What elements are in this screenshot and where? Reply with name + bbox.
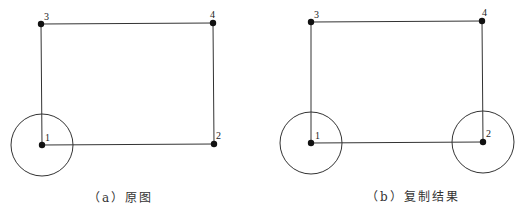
caption-original: （a）原图	[88, 188, 153, 205]
node-label-1: 1	[315, 131, 320, 141]
node-label-3: 3	[314, 10, 319, 20]
edge-4-2	[213, 23, 214, 144]
node-4	[210, 20, 216, 26]
diagram-original	[0, 0, 260, 209]
edge-3-4	[311, 21, 482, 22]
edge-3-4	[41, 23, 213, 24]
node-label-2: 2	[216, 131, 221, 141]
node-label-2: 2	[486, 129, 491, 139]
edge-1-2	[311, 142, 483, 143]
panel-original: 1 2 3 4 （a）原图	[0, 0, 260, 209]
edge-4-2	[482, 21, 483, 142]
node-1	[308, 140, 314, 146]
node-4	[479, 18, 485, 24]
panel-copy-result: 1 2 3 4 （b）复制结果	[260, 0, 520, 209]
node-label-4: 4	[482, 8, 487, 18]
node-label-1: 1	[45, 133, 50, 143]
caption-copy-result: （b）复制结果	[366, 187, 460, 204]
edge-1-2	[42, 144, 214, 145]
node-2	[480, 139, 486, 145]
edge-1-3	[41, 24, 42, 145]
node-2	[211, 141, 217, 147]
diagram-copy-result	[260, 0, 520, 209]
node-label-4: 4	[210, 10, 215, 20]
node-label-3: 3	[44, 12, 49, 22]
